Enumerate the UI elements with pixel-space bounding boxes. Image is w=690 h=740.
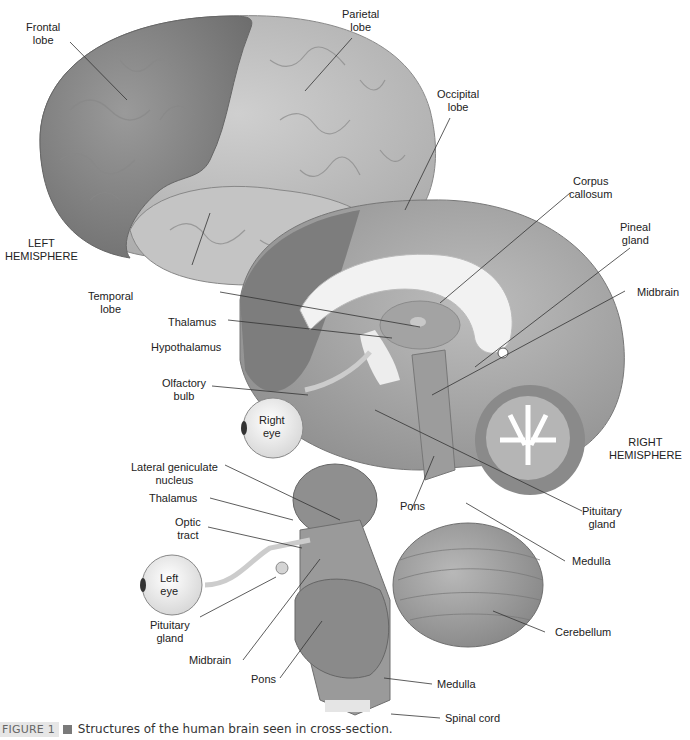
caption-square-icon: [63, 725, 72, 734]
figure-caption: FIGURE 1 Structures of the human brain s…: [0, 720, 393, 738]
label-pineal-gland: Pinealgland: [620, 221, 651, 247]
label-left-eye: Lefteye: [160, 572, 178, 598]
figure-number: FIGURE 1: [0, 722, 59, 737]
label-left-hemisphere: LEFTHEMISPHERE: [5, 237, 78, 263]
caption-text: Structures of the human brain seen in cr…: [78, 722, 393, 736]
label-right-eye: Righteye: [259, 414, 285, 440]
label-right-hemisphere: RIGHTHEMISPHERE: [609, 436, 682, 462]
cerebellum-illustration: [393, 523, 543, 647]
label-midbrain-right: Midbrain: [637, 286, 679, 299]
label-thalamus-bottom: Thalamus: [149, 492, 197, 505]
right-hemisphere: [240, 200, 624, 495]
label-lateral-geniculate-nucleus: Lateral geniculatenucleus: [131, 461, 218, 487]
label-pituitary-gland-left: Pituitarygland: [150, 619, 190, 645]
label-olfactory-bulb: Olfactorybulb: [162, 377, 206, 403]
label-thalamus-top: Thalamus: [168, 316, 216, 329]
label-corpus-callosum: Corpuscallosum: [569, 175, 612, 201]
label-pituitary-gland-right: Pituitarygland: [582, 505, 622, 531]
label-parietal-lobe: Parietallobe: [342, 8, 379, 34]
label-cerebellum: Cerebellum: [555, 626, 611, 639]
label-frontal-lobe: Frontallobe: [26, 21, 60, 47]
label-optic-tract: Optictract: [175, 516, 201, 542]
cerebellum-section: [475, 385, 585, 495]
label-medulla-bottom: Medulla: [437, 678, 476, 691]
label-spinal-cord: Spinal cord: [445, 712, 500, 725]
label-pons-top: Pons: [400, 500, 425, 513]
label-midbrain-bottom: Midbrain: [189, 654, 231, 667]
label-occipital-lobe: Occipitallobe: [437, 88, 479, 114]
label-medulla-right: Medulla: [572, 555, 611, 568]
label-hypothalamus: Hypothalamus: [151, 341, 221, 354]
label-pons-bottom: Pons: [251, 673, 276, 686]
label-temporal-lobe: Temporallobe: [88, 290, 133, 316]
